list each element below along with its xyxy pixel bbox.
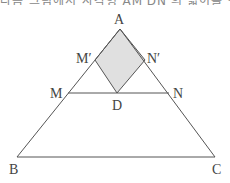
label-b: B — [9, 162, 18, 177]
label-m-prime: M′ — [76, 51, 92, 66]
label-c: C — [212, 162, 221, 177]
label-d: D — [112, 98, 122, 113]
shaded-rhombus — [95, 29, 145, 93]
label-m: M — [50, 86, 63, 101]
label-n: N — [173, 86, 183, 101]
label-a: A — [114, 12, 125, 27]
label-n-prime: N′ — [147, 51, 160, 66]
triangle-diagram: A M′ N′ M N D B C — [0, 0, 230, 183]
